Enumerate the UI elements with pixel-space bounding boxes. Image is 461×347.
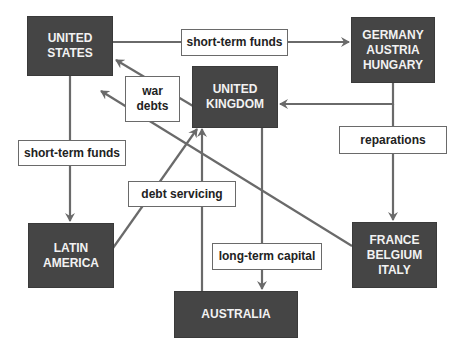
node-label: AUSTRALIA bbox=[201, 307, 270, 322]
node-label: AUSTRIA bbox=[362, 43, 423, 58]
node-label: UNITED bbox=[47, 31, 93, 46]
edge-label-text: short-term funds bbox=[187, 35, 283, 50]
node-united-kingdom: UNITED KINGDOM bbox=[192, 66, 278, 128]
node-label: LATIN bbox=[43, 241, 99, 256]
arrow-germany-to-uk bbox=[280, 82, 393, 104]
label-short-term-funds-left: short-term funds bbox=[18, 140, 126, 166]
edge-label-text: debts bbox=[136, 99, 168, 114]
node-australia: AUSTRALIA bbox=[174, 291, 298, 338]
edge-label-text: war bbox=[142, 84, 163, 99]
node-united-states: UNITED STATES bbox=[27, 16, 113, 76]
node-label: STATES bbox=[47, 46, 93, 61]
label-long-term-capital: long-term capital bbox=[212, 243, 322, 270]
label-reparations: reparations bbox=[339, 126, 447, 154]
node-label: GERMANY bbox=[362, 28, 423, 43]
node-label: UNITED bbox=[206, 82, 264, 97]
node-france-belgium-italy: FRANCE BELGIUM ITALY bbox=[352, 222, 437, 288]
node-label: ITALY bbox=[367, 263, 422, 278]
edge-label-text: reparations bbox=[360, 133, 425, 148]
node-label: KINGDOM bbox=[206, 97, 264, 112]
edge-label-text: short-term funds bbox=[24, 146, 120, 161]
node-latin-america: LATIN AMERICA bbox=[28, 223, 114, 288]
node-germany-austria-hungary: GERMANY AUSTRIA HUNGARY bbox=[351, 17, 435, 83]
node-label: FRANCE bbox=[367, 233, 422, 248]
label-war-debts: war debts bbox=[125, 76, 180, 122]
label-short-term-funds-top: short-term funds bbox=[181, 29, 288, 56]
label-debt-servicing: debt servicing bbox=[128, 181, 236, 207]
node-label: BELGIUM bbox=[367, 248, 422, 263]
edge-label-text: debt servicing bbox=[141, 187, 222, 202]
node-label: HUNGARY bbox=[362, 58, 423, 73]
edge-label-text: long-term capital bbox=[219, 249, 316, 264]
node-label: AMERICA bbox=[43, 256, 99, 271]
